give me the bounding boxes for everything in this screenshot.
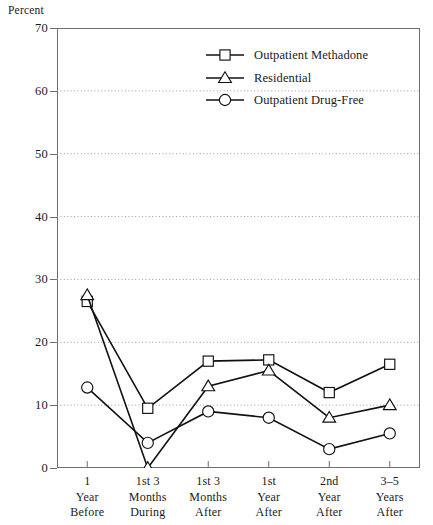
x-axis-tick-label-line: 3–5 — [347, 474, 433, 490]
data-point-triangle — [81, 289, 94, 300]
data-point-square-legend — [220, 50, 230, 60]
data-point-square — [385, 359, 395, 369]
data-point-triangle — [262, 364, 275, 375]
legend-label: Residential — [245, 67, 311, 90]
data-point-square — [203, 356, 213, 366]
data-point-triangle — [383, 399, 396, 410]
chart-container: Percent 010203040506070 1YearBefore1st 3… — [0, 0, 433, 525]
data-point-circle — [384, 428, 395, 439]
series-square — [82, 296, 395, 413]
series-line — [87, 388, 390, 450]
y-axis-tick-label: 50 — [4, 147, 48, 160]
y-axis-title: Percent — [8, 4, 44, 16]
legend-item[interactable]: Residential — [205, 67, 368, 90]
series-circle — [82, 382, 396, 455]
y-axis-tick-mark — [50, 279, 57, 280]
legend-label: Outpatient Methadone — [245, 44, 368, 67]
chart-legend: Outpatient MethadoneResidentialOutpatien… — [205, 44, 368, 112]
y-axis-tick-mark — [50, 28, 57, 29]
data-point-circle — [142, 437, 153, 448]
data-point-circle — [263, 412, 274, 423]
legend-item[interactable]: Outpatient Drug-Free — [205, 89, 368, 112]
legend-marker-circle-icon — [205, 92, 245, 108]
x-axis-tick-label: 3–5YearsAfter — [347, 474, 433, 521]
y-axis-tick-mark — [50, 468, 57, 469]
y-axis-tick-label: 70 — [4, 22, 48, 35]
data-point-circle-legend — [219, 95, 230, 106]
legend-item[interactable]: Outpatient Methadone — [205, 44, 368, 67]
data-point-circle — [203, 406, 214, 417]
legend-marker-triangle-icon — [205, 70, 245, 86]
series-triangle — [81, 289, 396, 468]
y-axis-tick-mark — [50, 342, 57, 343]
data-point-square — [143, 403, 153, 413]
y-axis-tick-label: 30 — [4, 273, 48, 286]
legend-label: Outpatient Drug-Free — [245, 89, 364, 112]
y-axis-tick-mark — [50, 154, 57, 155]
y-axis-tick-mark — [50, 91, 57, 92]
y-axis-tick-label: 10 — [4, 399, 48, 412]
y-axis-tick-label: 60 — [4, 85, 48, 98]
y-axis-tick-label: 20 — [4, 336, 48, 349]
y-axis-tick-label: 0 — [4, 462, 48, 475]
series-line — [87, 301, 390, 408]
data-point-circle — [324, 444, 335, 455]
y-axis-tick-mark — [50, 405, 57, 406]
y-axis-tick-label: 40 — [4, 210, 48, 223]
data-point-square — [324, 387, 334, 397]
x-axis-tick-label-line: After — [347, 505, 433, 521]
y-axis-tick-mark — [50, 217, 57, 218]
data-point-triangle-legend — [219, 72, 232, 83]
legend-marker-square-icon — [205, 47, 245, 63]
x-axis-tick-label-line: Years — [347, 490, 433, 506]
data-point-circle — [82, 382, 93, 393]
